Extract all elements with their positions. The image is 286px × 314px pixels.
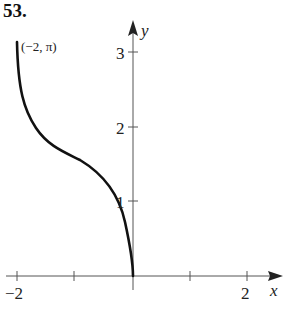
y-tick-label-3: 3 — [116, 44, 125, 63]
x-tick-label-2: 2 — [241, 284, 250, 303]
graph: y x −2 2 1 2 3 (−2, π) — [0, 0, 286, 314]
point-annotation: (−2, π) — [21, 39, 57, 54]
curve — [17, 42, 133, 276]
y-axis-label: y — [139, 21, 149, 40]
y-tick-label-2: 2 — [116, 119, 125, 138]
x-axis — [6, 271, 283, 281]
x-axis-arrow-icon — [268, 271, 283, 281]
x-axis-label: x — [269, 281, 278, 300]
x-tick-label-neg2: −2 — [5, 284, 23, 303]
y-tick-label-1: 1 — [116, 193, 125, 212]
